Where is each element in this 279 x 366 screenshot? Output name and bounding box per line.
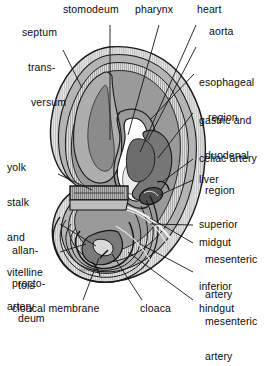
label-liver: liver [199,174,219,186]
label-celiac-artery: celiac artery [199,153,257,165]
label-hindgut: hindgut [199,303,234,315]
embryo-body: Nelson [51,47,206,283]
label-cloaca: cloaca [140,303,171,315]
label-aorta: aorta [209,26,233,38]
label-stomodeum: stomodeum [63,4,119,16]
label-yolk-stalk-vitelline-artery: yolk stalk and vitelline artery [7,139,43,336]
yolk-stalk [70,186,128,210]
label-midgut: midgut [199,237,231,249]
label-septum-transversum: septum trans- versum [22,4,66,132]
label-pharynx: pharynx [135,4,173,16]
label-heart: heart [197,4,221,16]
